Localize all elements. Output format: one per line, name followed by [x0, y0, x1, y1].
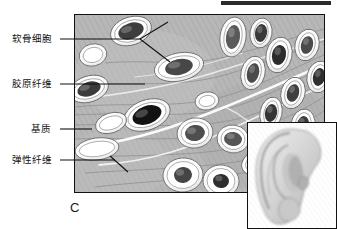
- top-rule: [221, 1, 331, 5]
- panel-letter: C: [70, 200, 79, 215]
- label-elastic-fiber: 弹性纤维: [12, 154, 52, 165]
- ear-inset-panel: [247, 122, 337, 229]
- label-chondrocyte: 软骨细胞: [12, 33, 52, 44]
- label-collagen-fiber: 胶原纤维: [12, 78, 52, 89]
- label-matrix: 基质: [31, 123, 51, 134]
- figure-root: 软骨细胞 胶原纤维 基质 弹性纤维 C: [0, 0, 337, 229]
- ear-illustration: [248, 123, 336, 228]
